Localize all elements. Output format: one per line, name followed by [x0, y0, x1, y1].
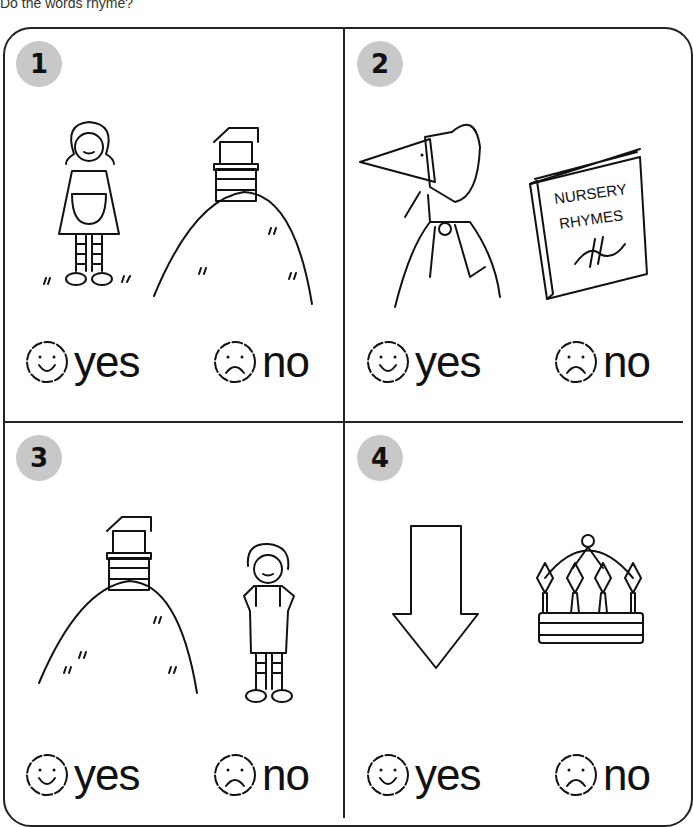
panel-number-badge: 2	[357, 41, 403, 87]
answer-row: yes no	[365, 334, 675, 390]
smiley-face-icon	[365, 752, 411, 798]
bonnet-girl-picture	[360, 117, 510, 317]
no-option[interactable]: no	[212, 747, 309, 803]
book-title-line-2: RHYMES	[558, 206, 624, 232]
panel-2: 2 NURSERY RHYMES yes no	[345, 29, 685, 423]
answer-row: yes no	[24, 747, 334, 803]
sad-face-icon	[212, 339, 258, 385]
panel-number-badge: 3	[16, 435, 62, 481]
smiley-face-icon	[24, 752, 70, 798]
hill-with-well-picture	[39, 513, 209, 703]
no-label: no	[262, 753, 309, 797]
yes-option[interactable]: yes	[365, 334, 480, 390]
panel-4: 4 yes no	[345, 423, 685, 817]
sad-face-icon	[553, 752, 599, 798]
smiley-face-icon	[24, 339, 70, 385]
crown-picture	[533, 533, 653, 648]
panel-number-badge: 1	[16, 41, 62, 87]
answer-row: yes no	[24, 334, 334, 390]
boy-picture	[236, 541, 301, 706]
girl-picture	[44, 119, 134, 299]
smiley-face-icon	[365, 339, 411, 385]
panel-3: 3 yes no	[4, 423, 344, 817]
yes-label: yes	[415, 753, 480, 797]
book-title-line-1: NURSERY	[553, 180, 628, 207]
worksheet-title: Do the words rhyme?	[0, 0, 133, 11]
hill-with-well-picture	[154, 124, 324, 314]
yes-label: yes	[74, 753, 139, 797]
yes-option[interactable]: yes	[24, 747, 139, 803]
answer-row: yes no	[365, 747, 675, 803]
sad-face-icon	[212, 752, 258, 798]
no-label: no	[262, 340, 309, 384]
yes-label: yes	[74, 340, 139, 384]
no-label: no	[603, 340, 650, 384]
panel-number-badge: 4	[357, 435, 403, 481]
yes-option[interactable]: yes	[365, 747, 480, 803]
yes-label: yes	[415, 340, 480, 384]
no-option[interactable]: no	[553, 747, 650, 803]
yes-option[interactable]: yes	[24, 334, 139, 390]
no-label: no	[603, 753, 650, 797]
sad-face-icon	[553, 339, 599, 385]
no-option[interactable]: no	[553, 334, 650, 390]
panel-1: 1 yes no	[4, 29, 344, 423]
down-arrow-picture	[393, 526, 483, 671]
no-option[interactable]: no	[212, 334, 309, 390]
nursery-rhymes-book-picture: NURSERY RHYMES	[525, 149, 665, 309]
